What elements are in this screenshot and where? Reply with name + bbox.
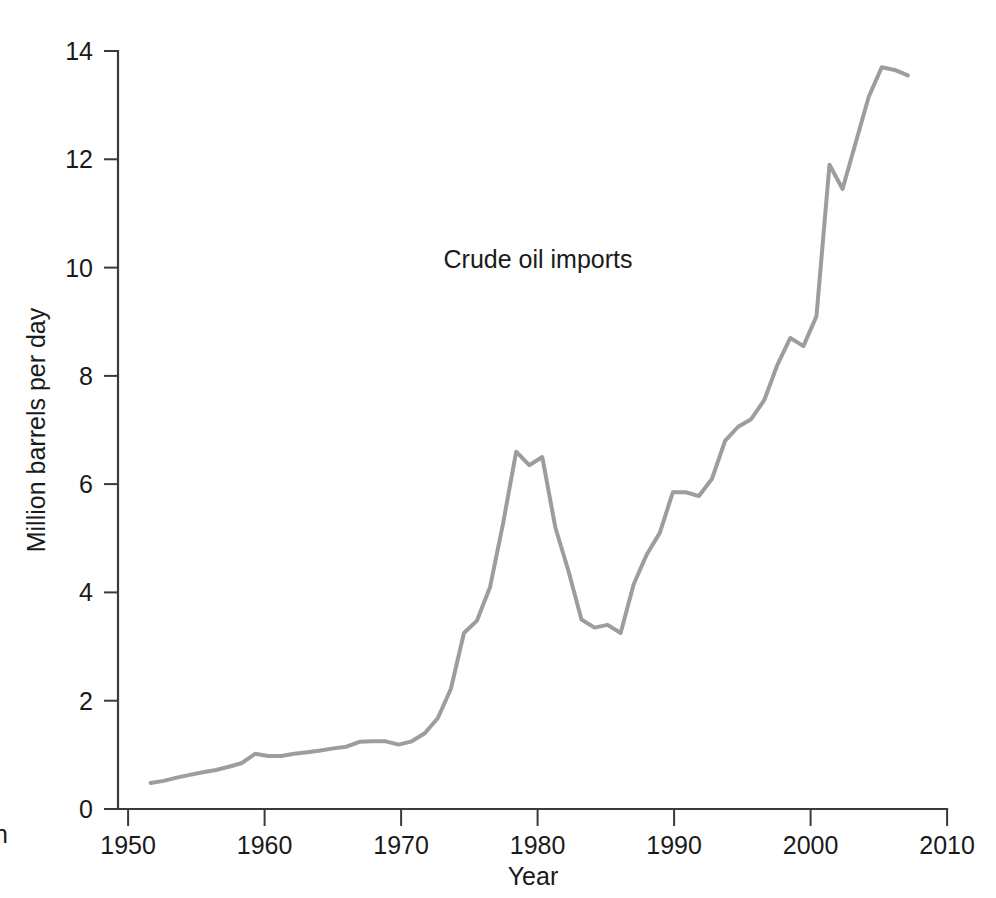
x-tick-label-1970: 1970 bbox=[373, 831, 429, 859]
y-tick-label-4: 4 bbox=[79, 578, 93, 606]
x-axis-tick-labels: 1950 1960 1970 1980 1990 2000 2010 bbox=[100, 831, 975, 859]
y-axis-title: Million barrels per day bbox=[22, 307, 50, 552]
series-annotation-crude-oil-imports: Crude oil imports bbox=[444, 245, 633, 273]
x-axis-ticks bbox=[128, 809, 947, 826]
x-tick-label-1990: 1990 bbox=[646, 831, 702, 859]
x-tick-label-1980: 1980 bbox=[510, 831, 566, 859]
x-tick-label-2000: 2000 bbox=[783, 831, 839, 859]
y-tick-label-8: 8 bbox=[79, 362, 93, 390]
y-tick-label-6: 6 bbox=[79, 470, 93, 498]
x-axis-title: Year bbox=[508, 862, 559, 890]
crude-oil-imports-line-chart: 0 2 4 6 8 10 12 14 1950 1960 1970 1980 1… bbox=[0, 0, 996, 898]
y-tick-label-0: 0 bbox=[79, 795, 93, 823]
x-tick-label-2010: 2010 bbox=[919, 831, 975, 859]
chart-figure: 0 2 4 6 8 10 12 14 1950 1960 1970 1980 1… bbox=[0, 0, 996, 898]
y-tick-label-2: 2 bbox=[79, 687, 93, 715]
cropped-edge-text-fragment: n bbox=[0, 822, 8, 847]
y-axis-tick-labels: 0 2 4 6 8 10 12 14 bbox=[65, 37, 93, 823]
x-tick-label-1960: 1960 bbox=[237, 831, 293, 859]
x-tick-label-1950: 1950 bbox=[100, 831, 156, 859]
y-axis-ticks bbox=[104, 51, 118, 809]
y-tick-label-14: 14 bbox=[65, 37, 93, 65]
y-tick-label-10: 10 bbox=[65, 254, 93, 282]
y-tick-label-12: 12 bbox=[65, 145, 93, 173]
data-series-line-crude-oil-imports bbox=[151, 67, 908, 783]
